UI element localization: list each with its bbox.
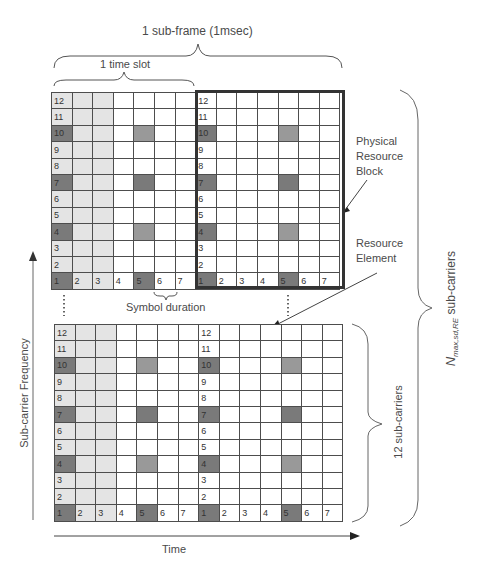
resource-element: 8 bbox=[52, 158, 73, 174]
resource-element bbox=[75, 456, 96, 472]
resource-element: 6 bbox=[196, 191, 217, 207]
resource-element bbox=[240, 456, 261, 472]
resource-element bbox=[240, 472, 261, 488]
resource-element bbox=[116, 357, 137, 373]
resource-element: 4 bbox=[199, 456, 220, 472]
resource-element bbox=[93, 109, 114, 125]
resource-element bbox=[175, 158, 196, 174]
resource-element bbox=[157, 341, 178, 357]
resource-element bbox=[237, 191, 258, 207]
resource-element bbox=[302, 341, 323, 357]
subcarrier-row: 1212 bbox=[52, 93, 340, 109]
resource-element bbox=[257, 207, 278, 223]
twelve-subcarriers-brace bbox=[352, 324, 382, 522]
resource-element: 6 bbox=[199, 423, 220, 439]
resource-element bbox=[157, 439, 178, 455]
resource-element bbox=[281, 439, 302, 455]
x-axis-arrowhead bbox=[350, 532, 360, 540]
resource-element: 9 bbox=[199, 374, 220, 390]
resource-element bbox=[96, 357, 117, 373]
resource-element bbox=[319, 174, 340, 190]
subcarrier-row: 1111 bbox=[52, 109, 340, 125]
resource-element bbox=[299, 240, 320, 256]
resource-element bbox=[116, 406, 137, 422]
resource-element bbox=[93, 224, 114, 240]
resource-element bbox=[96, 456, 117, 472]
resource-element bbox=[319, 109, 340, 125]
resource-element bbox=[157, 325, 178, 341]
resource-element bbox=[175, 93, 196, 109]
symbol-duration-brace bbox=[154, 292, 177, 300]
resource-element bbox=[319, 207, 340, 223]
subcarrier-row: 88 bbox=[52, 158, 340, 174]
subcarrier-row: 55 bbox=[55, 439, 343, 455]
resource-element bbox=[257, 191, 278, 207]
subcarrier-row: 1010 bbox=[52, 125, 340, 141]
resource-element bbox=[134, 256, 155, 272]
subcarrier-row: 1010 bbox=[55, 357, 343, 373]
resource-element bbox=[75, 374, 96, 390]
resource-element bbox=[216, 207, 237, 223]
resource-element bbox=[219, 357, 240, 373]
resource-element bbox=[299, 125, 320, 141]
resource-element bbox=[322, 439, 343, 455]
resource-element bbox=[134, 158, 155, 174]
resource-element: 11 bbox=[52, 109, 73, 125]
subcarrier-row: 77 bbox=[52, 174, 340, 190]
resource-element bbox=[113, 109, 134, 125]
resource-element bbox=[113, 125, 134, 141]
resource-element bbox=[237, 207, 258, 223]
resource-element bbox=[134, 125, 155, 141]
resource-element bbox=[260, 472, 281, 488]
resource-element bbox=[281, 341, 302, 357]
resource-element bbox=[72, 256, 93, 272]
resource-element bbox=[299, 158, 320, 174]
twelve-subcarriers-label: 12 sub-carriers bbox=[392, 372, 404, 472]
resource-element bbox=[175, 142, 196, 158]
subcarrier-row: 33 bbox=[55, 472, 343, 488]
resource-element: 1 bbox=[199, 505, 220, 521]
resource-element: 12 bbox=[52, 93, 73, 109]
resource-element: 8 bbox=[199, 390, 220, 406]
resource-element bbox=[96, 488, 117, 504]
prb-label-line: Resource bbox=[356, 149, 403, 164]
re-label-line: Element bbox=[356, 251, 403, 266]
prb-label: Physical Resource Block bbox=[356, 134, 403, 179]
resource-element bbox=[216, 256, 237, 272]
resource-element bbox=[116, 374, 137, 390]
symbol-duration-label: Symbol duration bbox=[126, 301, 206, 313]
resource-element bbox=[175, 240, 196, 256]
resource-element bbox=[260, 325, 281, 341]
resource-element bbox=[116, 472, 137, 488]
resource-element bbox=[154, 158, 175, 174]
resource-element bbox=[75, 325, 96, 341]
subcarrier-row: 1111 bbox=[55, 341, 343, 357]
resource-element: 3 bbox=[96, 505, 117, 521]
resource-element bbox=[134, 191, 155, 207]
resource-element bbox=[93, 207, 114, 223]
resource-element bbox=[154, 240, 175, 256]
resource-element bbox=[157, 456, 178, 472]
resource-element bbox=[178, 472, 199, 488]
resource-element bbox=[322, 406, 343, 422]
resource-element bbox=[278, 240, 299, 256]
resource-element bbox=[319, 142, 340, 158]
resource-element: 2 bbox=[219, 505, 240, 521]
resource-element bbox=[281, 488, 302, 504]
resource-element bbox=[260, 390, 281, 406]
resource-element bbox=[113, 142, 134, 158]
resource-element bbox=[157, 423, 178, 439]
resource-element: 5 bbox=[278, 273, 299, 289]
resource-element bbox=[299, 207, 320, 223]
resource-element bbox=[137, 390, 158, 406]
resource-element bbox=[299, 256, 320, 272]
resource-element bbox=[281, 357, 302, 373]
prb-pointer-arrowhead bbox=[343, 207, 350, 213]
subframe-label: 1 sub-frame (1msec) bbox=[142, 24, 253, 38]
resource-element bbox=[281, 374, 302, 390]
resource-element: 4 bbox=[52, 224, 73, 240]
resource-element bbox=[75, 357, 96, 373]
resource-element bbox=[216, 240, 237, 256]
resource-element bbox=[302, 439, 323, 455]
resource-element bbox=[216, 93, 237, 109]
